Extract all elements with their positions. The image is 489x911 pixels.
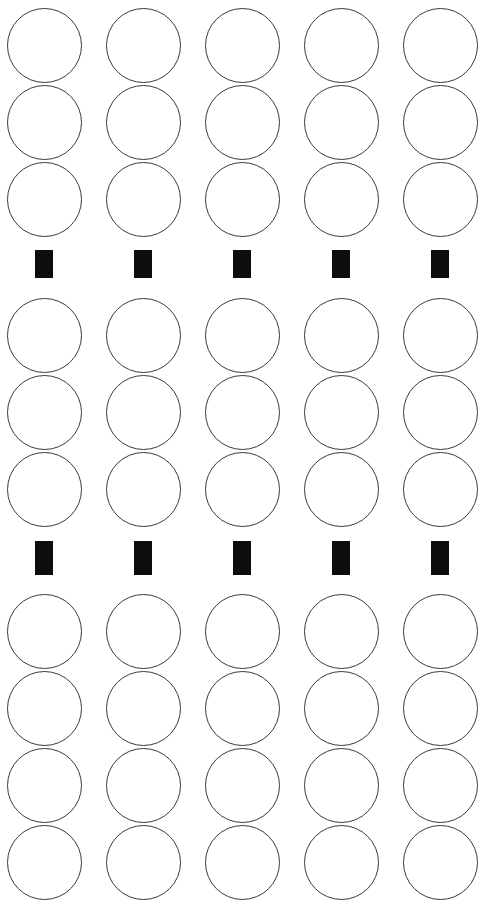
timing-mark bbox=[332, 250, 350, 278]
bubble-option[interactable] bbox=[106, 825, 181, 900]
bubble-option[interactable] bbox=[403, 594, 478, 669]
bubble-row bbox=[0, 594, 489, 671]
bubble-option[interactable] bbox=[7, 748, 82, 823]
timing-mark bbox=[332, 541, 350, 575]
bubble-option[interactable] bbox=[106, 594, 181, 669]
bubble-row bbox=[0, 825, 489, 902]
bubble-option[interactable] bbox=[7, 825, 82, 900]
timing-mark bbox=[134, 541, 152, 575]
bubble-option[interactable] bbox=[304, 825, 379, 900]
bubble-option[interactable] bbox=[403, 825, 478, 900]
bubble-option[interactable] bbox=[106, 748, 181, 823]
timing-mark bbox=[431, 250, 449, 278]
timing-mark-row bbox=[0, 541, 489, 575]
bubble-option[interactable] bbox=[403, 748, 478, 823]
timing-mark bbox=[431, 541, 449, 575]
bubble-row bbox=[0, 748, 489, 825]
timing-mark bbox=[233, 541, 251, 575]
bubble-option[interactable] bbox=[205, 748, 280, 823]
bubble-option[interactable] bbox=[7, 671, 82, 746]
bubble-option[interactable] bbox=[403, 671, 478, 746]
timing-mark bbox=[134, 250, 152, 278]
bubble-option[interactable] bbox=[304, 594, 379, 669]
bubble-group bbox=[0, 0, 489, 911]
bubble-option[interactable] bbox=[106, 671, 181, 746]
bubble-option[interactable] bbox=[205, 594, 280, 669]
bubble-option[interactable] bbox=[205, 671, 280, 746]
bubble-sheet-canvas bbox=[0, 0, 489, 911]
timing-mark bbox=[35, 250, 53, 278]
bubble-option[interactable] bbox=[205, 825, 280, 900]
bubble-option[interactable] bbox=[304, 748, 379, 823]
timing-mark-row bbox=[0, 250, 489, 278]
bubble-row bbox=[0, 671, 489, 748]
timing-mark bbox=[233, 250, 251, 278]
bubble-option[interactable] bbox=[7, 594, 82, 669]
timing-mark bbox=[35, 541, 53, 575]
bubble-option[interactable] bbox=[304, 671, 379, 746]
